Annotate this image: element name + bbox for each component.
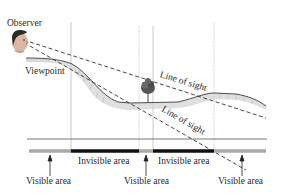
visible-area-label-1: Visible area — [26, 177, 71, 187]
arrow-up-icon — [144, 155, 148, 161]
arrow-up-icon — [240, 155, 244, 161]
observer-label: Observer — [7, 19, 42, 29]
viewshed-diagram — [0, 0, 281, 196]
visible-area-label-2: Visible area — [124, 177, 169, 187]
human-head-icon — [12, 30, 29, 53]
visible-area-label-3: Visible area — [218, 177, 263, 187]
invisible-area-label-2: Invisible area — [158, 157, 209, 167]
invisible-area-label-1: Invisible area — [78, 157, 129, 167]
arrow-up-icon — [48, 155, 52, 161]
viewpoint-label: Viewpoint — [25, 67, 65, 77]
